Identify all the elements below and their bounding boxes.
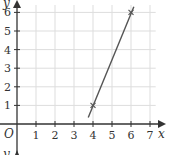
y-tick-label: 4	[4, 44, 11, 57]
x-tick-label: 6	[128, 129, 135, 142]
y-tick-label: 5	[4, 25, 11, 38]
x-tick-label: 2	[52, 129, 59, 142]
y-tick-label: 2	[4, 81, 11, 94]
origin-label: O	[4, 127, 14, 141]
x-tick-label: 5	[109, 129, 116, 142]
x-tick-label: 3	[71, 129, 78, 142]
second-y-axis-label: y	[2, 147, 10, 155]
x-axis-label: x	[158, 127, 165, 141]
data-line	[88, 7, 134, 118]
x-tick-label: 1	[33, 129, 40, 142]
line-chart: 1234567123456Oxyy	[0, 0, 172, 155]
y-axis-label: y	[2, 0, 10, 10]
y-axis-arrow-icon	[13, 0, 21, 8]
x-tick-label: 7	[147, 129, 154, 142]
second-y-axis-arrow-icon	[13, 150, 21, 155]
y-tick-label: 3	[4, 62, 11, 75]
x-tick-label: 4	[90, 129, 97, 142]
y-tick-label: 1	[4, 99, 11, 112]
